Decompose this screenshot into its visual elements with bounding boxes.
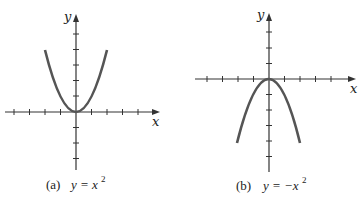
x-axis-label: x	[152, 114, 160, 129]
y-axis-label: y	[63, 9, 72, 24]
caption-equation: y = x	[69, 177, 98, 192]
caption-exponent: 2	[302, 175, 307, 185]
y-axis-arrow-icon	[73, 14, 79, 22]
caption-letter: (b)	[236, 178, 251, 193]
y-axis-arrow-icon	[266, 13, 272, 21]
caption-exponent: 2	[101, 174, 106, 184]
y-axis-label: y	[256, 7, 265, 22]
figure-canvas: y x (a) y = x 2 y x (b) y = −x 2	[0, 0, 363, 204]
graph-a: y x (a) y = x 2	[5, 9, 160, 192]
caption-letter: (a)	[46, 177, 60, 192]
graph-b: y x (b) y = −x 2	[195, 7, 358, 193]
x-axis-label: x	[350, 81, 358, 96]
caption-equation: y = −x	[261, 178, 299, 193]
